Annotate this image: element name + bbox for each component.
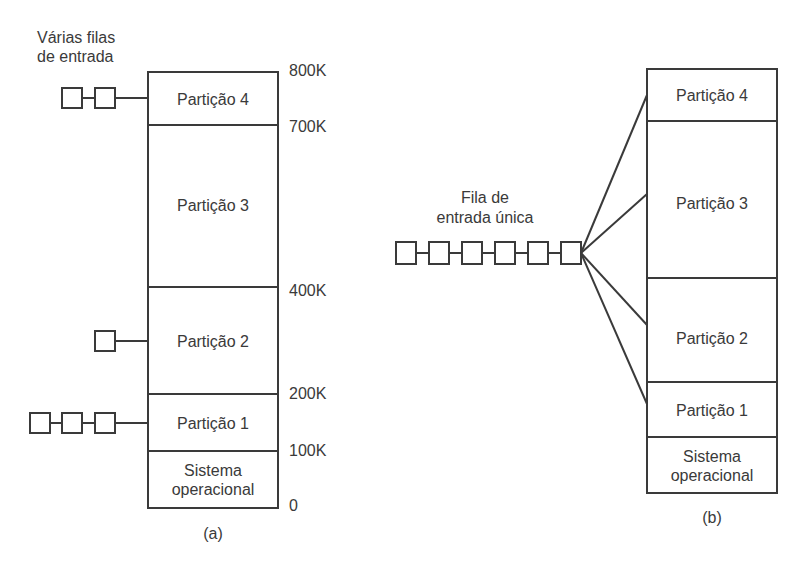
partition-label: Partição 4	[676, 86, 748, 105]
partition-3-a: Partição 3	[149, 126, 277, 287]
os-partition-a: Sistema operacional	[149, 452, 277, 508]
single-queue-title-line1: Fila de	[410, 188, 560, 207]
os-label-line2: operacional	[671, 466, 754, 485]
queues-title-line1: Várias filas	[37, 28, 115, 47]
partition-1-b: Partição 1	[648, 383, 776, 437]
partition-label: Partição 4	[177, 90, 249, 109]
os-label-line1: Sistema	[184, 461, 242, 480]
caption-a: (a)	[193, 524, 233, 543]
partition-4-a: Partição 4	[149, 73, 277, 125]
partition-4-b: Partição 4	[648, 70, 776, 121]
address-100k: 100K	[289, 441, 326, 460]
os-label-line1: Sistema	[683, 447, 741, 466]
address-0: 0	[289, 496, 298, 515]
partition-label: Partição 1	[177, 414, 249, 433]
address-200k: 200K	[289, 384, 326, 403]
partition-2-b: Partição 2	[648, 279, 776, 382]
partition-1-a: Partição 1	[149, 395, 277, 451]
partition-2-a: Partição 2	[149, 288, 277, 394]
partition-label: Partição 3	[676, 194, 748, 213]
single-queue-title-line2: entrada única	[410, 208, 560, 227]
fan-out-lines	[581, 95, 647, 404]
address-800k: 800K	[289, 61, 326, 80]
os-partition-b: Sistema operacional	[648, 438, 776, 493]
queue-partition-2	[95, 331, 148, 351]
partition-label: Partição 1	[676, 401, 748, 420]
partition-label: Partição 3	[177, 196, 249, 215]
address-400k: 400K	[289, 281, 326, 300]
caption-b: (b)	[692, 508, 732, 527]
queues-title-line2: de entrada	[37, 47, 114, 66]
queue-partition-4	[62, 88, 148, 108]
single-input-queue	[396, 242, 581, 264]
address-700k: 700K	[289, 117, 326, 136]
os-label-line2: operacional	[172, 480, 255, 499]
partition-label: Partição 2	[177, 332, 249, 351]
partition-label: Partição 2	[676, 329, 748, 348]
partition-3-b: Partição 3	[648, 122, 776, 278]
queue-partition-1	[30, 413, 148, 433]
